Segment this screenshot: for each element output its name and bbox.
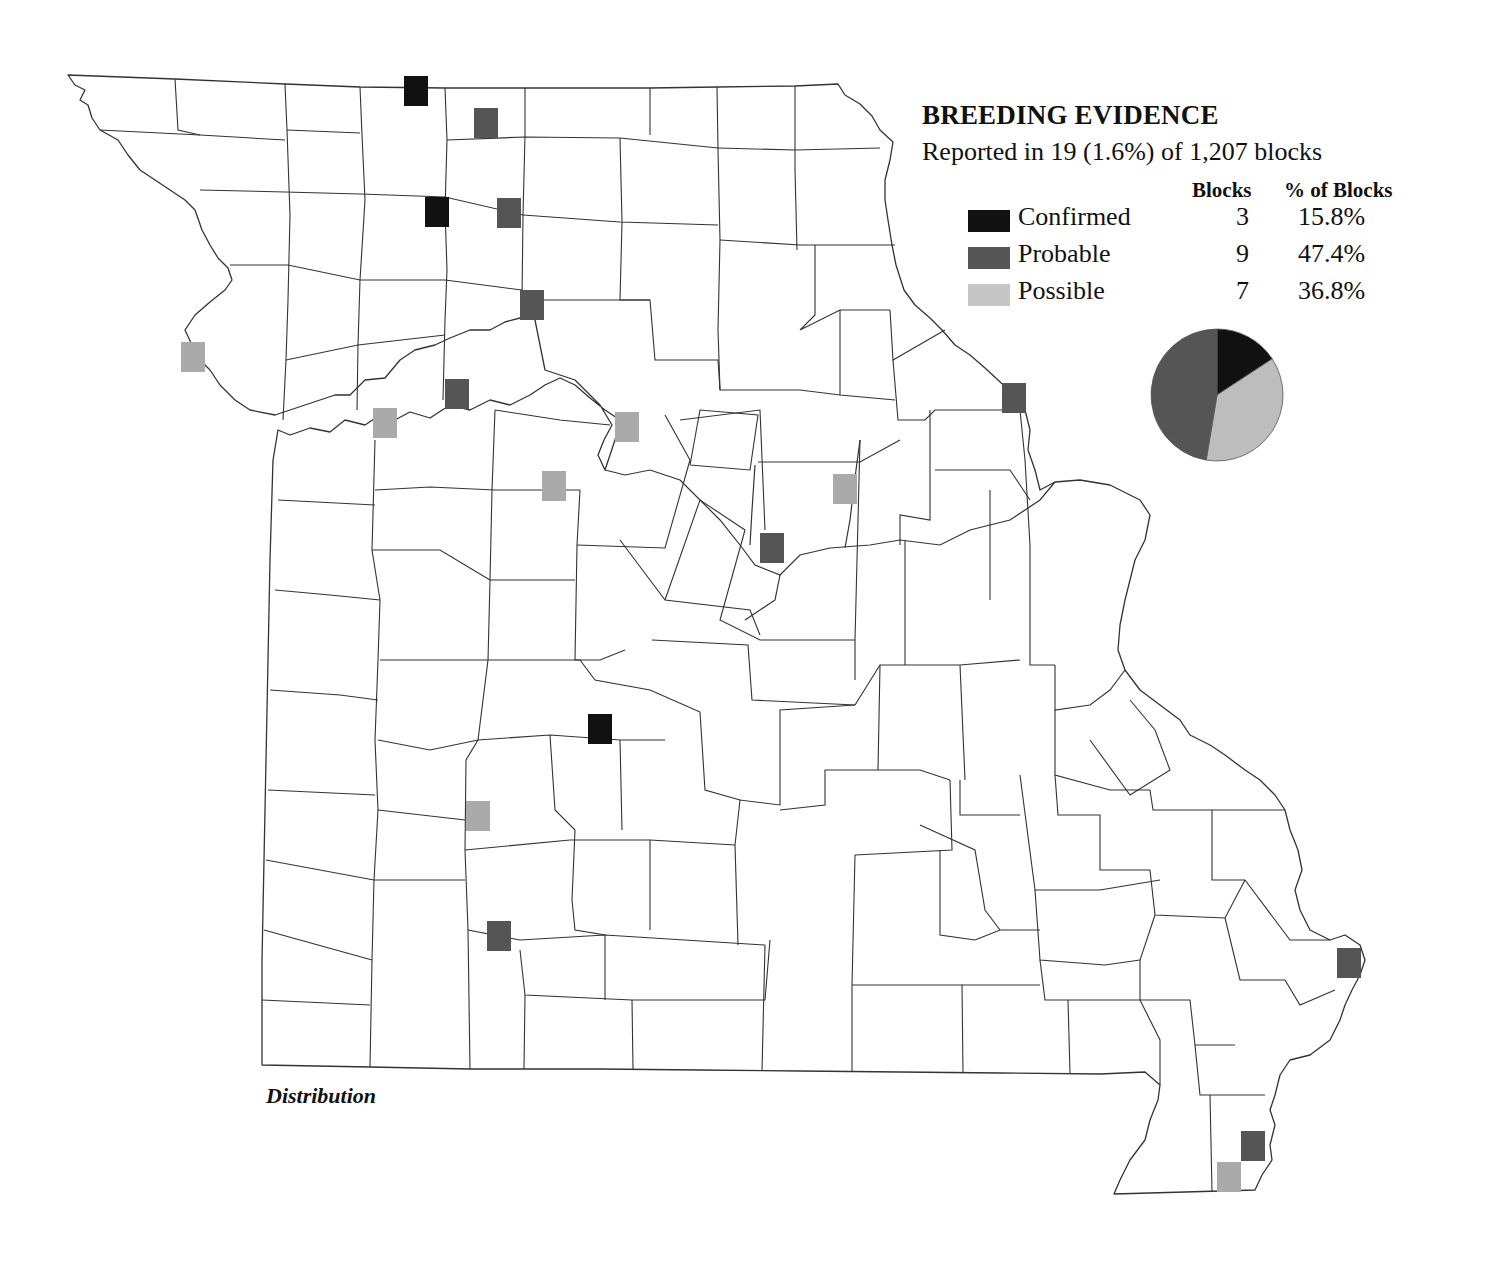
possible-marker (466, 801, 490, 831)
map-caption: Distribution (266, 1083, 376, 1109)
probable-marker (487, 921, 511, 951)
legend-pct: 15.8% (1298, 202, 1365, 232)
missouri-county-map (0, 0, 1494, 1264)
probable-marker (760, 533, 784, 563)
possible-marker (615, 412, 639, 442)
confirmed-marker (425, 197, 449, 227)
probable-marker (474, 108, 498, 138)
legend-blocks: 3 (1236, 202, 1249, 232)
probable-marker (1002, 383, 1026, 413)
legend-label: Probable (1018, 239, 1110, 269)
probable-marker (445, 379, 469, 409)
legend-row-possible: Possible 7 36.8% (968, 280, 1408, 310)
possible-swatch-icon (968, 284, 1010, 306)
legend-label: Confirmed (1018, 202, 1131, 232)
confirmed-marker (404, 76, 428, 106)
col-header-blocks: Blocks (1192, 178, 1252, 203)
probable-marker (1241, 1131, 1265, 1161)
probable-swatch-icon (968, 247, 1010, 269)
probable-marker (520, 290, 544, 320)
probable-marker (1337, 948, 1361, 978)
possible-marker (373, 408, 397, 438)
pie-slice-probable (1151, 329, 1217, 460)
possible-marker (1217, 1162, 1241, 1192)
legend-row-probable: Probable 9 47.4% (968, 243, 1408, 273)
possible-marker (181, 342, 205, 372)
legend-blocks: 9 (1236, 239, 1249, 269)
legend-subtitle: Reported in 19 (1.6%) of 1,207 blocks (922, 137, 1322, 167)
legend-blocks: 7 (1236, 276, 1249, 306)
legend-pct: 47.4% (1298, 239, 1365, 269)
confirmed-swatch-icon (968, 210, 1010, 232)
legend-title: BREEDING EVIDENCE (922, 100, 1219, 131)
possible-marker (833, 474, 857, 504)
col-header-pct: % of Blocks (1284, 178, 1393, 203)
probable-marker (497, 198, 521, 228)
legend-pct: 36.8% (1298, 276, 1365, 306)
possible-marker (542, 471, 566, 501)
legend-label: Possible (1018, 276, 1105, 306)
confirmed-marker (588, 714, 612, 744)
breeding-evidence-pie-chart (1148, 327, 1286, 463)
legend-row-confirmed: Confirmed 3 15.8% (968, 206, 1408, 236)
